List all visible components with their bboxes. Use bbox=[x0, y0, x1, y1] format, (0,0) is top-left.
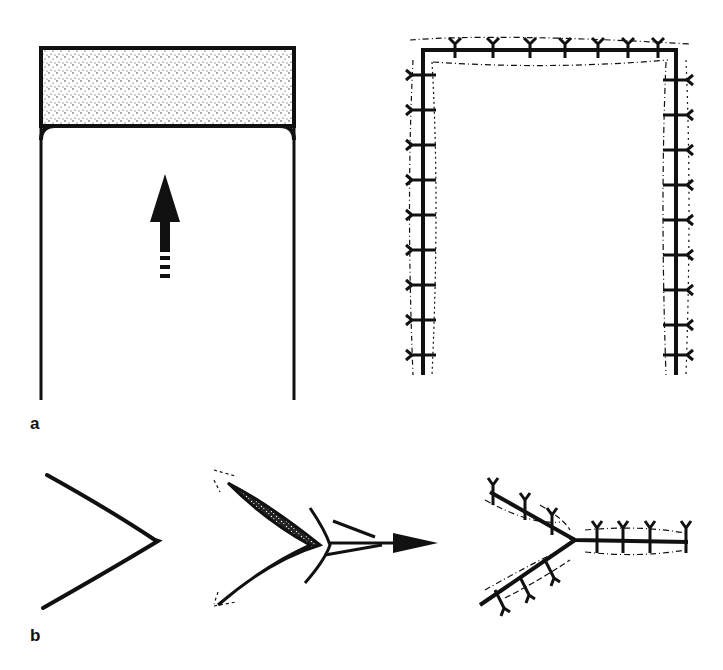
cap-rounded-edge bbox=[41, 126, 294, 140]
stippled-cap bbox=[41, 48, 294, 126]
panel-b-v-incision bbox=[43, 475, 158, 608]
panel-b-sutured-y-closure bbox=[480, 478, 691, 616]
panel-a-tube-diagram bbox=[41, 48, 294, 400]
panel-a-sutured-u bbox=[406, 37, 693, 375]
up-arrow-icon bbox=[150, 174, 180, 278]
panel-b-v-flap-advancement bbox=[214, 470, 438, 606]
figure-canvas bbox=[0, 0, 723, 670]
